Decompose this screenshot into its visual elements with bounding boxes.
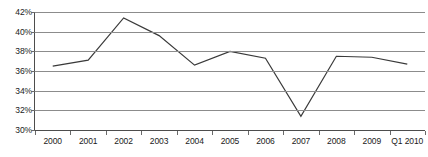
- x-axis-tick: [425, 131, 426, 135]
- y-axis-tick: [31, 12, 35, 13]
- x-axis-tick: [35, 131, 36, 135]
- x-axis-tick: [248, 131, 249, 135]
- y-axis-tick-label: 32%: [0, 106, 32, 115]
- x-axis-tick-label: 2005: [221, 137, 240, 146]
- plot-area: [35, 12, 425, 130]
- gridline: [35, 32, 425, 33]
- y-axis-tick-label: 40%: [0, 27, 32, 36]
- y-axis-tick-label: 34%: [0, 86, 32, 95]
- x-axis-tick-label: 2006: [256, 137, 275, 146]
- y-axis-tick: [31, 91, 35, 92]
- x-axis-tick-label: 2001: [79, 137, 98, 146]
- x-axis-tick-label: 2003: [150, 137, 169, 146]
- x-axis-tick: [106, 131, 107, 135]
- x-axis-tick: [319, 131, 320, 135]
- gridline: [35, 91, 425, 92]
- y-axis-tick: [31, 110, 35, 111]
- x-axis-tick: [354, 131, 355, 135]
- y-axis-tick: [31, 71, 35, 72]
- x-axis-tick-label: 2000: [43, 137, 62, 146]
- y-axis-tick: [31, 32, 35, 33]
- x-axis-tick-label: 2007: [292, 137, 311, 146]
- x-axis-tick-label: 2004: [185, 137, 204, 146]
- x-axis-line: [35, 130, 425, 131]
- y-axis-tick-label: 38%: [0, 47, 32, 56]
- x-axis-tick-label: Q1 2010: [391, 137, 423, 146]
- y-axis-tick-labels: 42%40%38%36%34%32%30%: [0, 0, 32, 157]
- line-chart: 42%40%38%36%34%32%30% 200020012002200320…: [0, 0, 428, 157]
- x-axis-tick-label: 2002: [114, 137, 133, 146]
- y-axis-tick-label: 36%: [0, 67, 32, 76]
- x-axis-tick: [141, 131, 142, 135]
- gridline: [35, 71, 425, 72]
- x-axis-tick: [70, 131, 71, 135]
- x-axis-tick-label: 2008: [327, 137, 346, 146]
- y-axis-tick-label: 30%: [0, 126, 32, 135]
- x-axis-tick: [212, 131, 213, 135]
- gridline: [35, 12, 425, 13]
- x-axis-tick: [177, 131, 178, 135]
- y-axis-tick: [31, 51, 35, 52]
- x-axis-tick: [283, 131, 284, 135]
- x-axis-tick-label: 2009: [363, 137, 382, 146]
- x-axis-tick: [390, 131, 391, 135]
- x-axis-tick-labels: 2000200120022003200420052006200720082009…: [35, 137, 425, 155]
- y-axis-tick-label: 42%: [0, 8, 32, 17]
- gridline: [35, 110, 425, 111]
- gridline: [35, 51, 425, 52]
